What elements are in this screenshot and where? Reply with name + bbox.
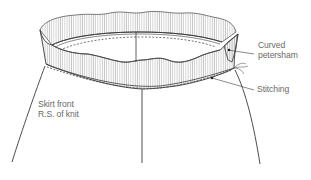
- label-line: R.S. of knit: [38, 110, 79, 120]
- diagram-canvas: Curved petersham Stitching Skirt front R…: [0, 0, 311, 180]
- label-stitching: Stitching: [257, 85, 289, 95]
- label-line: petersham: [258, 51, 298, 61]
- petersham-band-back: [40, 11, 236, 45]
- label-skirt-front: Skirt front R.S. of knit: [38, 100, 79, 119]
- label-line: Stitching: [257, 84, 289, 94]
- label-curved-petersham: Curved petersham: [258, 41, 298, 60]
